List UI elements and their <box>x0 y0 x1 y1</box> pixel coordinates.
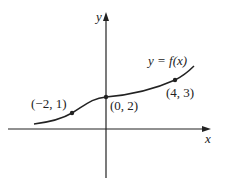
x-axis-label: x <box>205 132 211 145</box>
y-axis-label: y <box>96 10 102 23</box>
curve-label: y = f(x) <box>148 54 187 67</box>
point-marker-4-3 <box>173 78 177 82</box>
y-axis-arrow-icon <box>103 12 109 21</box>
point-marker-0-2 <box>104 95 108 99</box>
graph-canvas <box>0 0 235 182</box>
point-label-4-3: (4, 3) <box>166 86 194 99</box>
point-label-neg2-1: (−2, 1) <box>31 97 67 110</box>
function-graph: y x (−2, 1) (0, 2) (4, 3) y = f(x) <box>0 0 235 182</box>
point-label-0-2: (0, 2) <box>110 99 138 112</box>
point-marker-neg2-1 <box>70 111 74 115</box>
